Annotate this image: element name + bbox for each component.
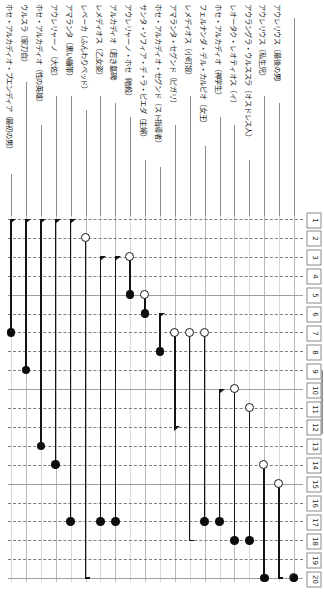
column-gridline (160, 216, 161, 582)
rank-axis-label: 7 (307, 325, 322, 341)
rank-gridline (8, 484, 303, 485)
label-lead-line (71, 96, 72, 216)
range-connector (263, 465, 265, 578)
series-end-marker[interactable] (96, 517, 105, 526)
series-start-marker[interactable] (10, 219, 16, 224)
rank-axis-label: 11 (307, 401, 322, 417)
label-lead-line (26, 82, 27, 216)
range-connector (85, 238, 87, 578)
series-start-marker[interactable] (55, 219, 61, 224)
series-end-marker[interactable] (7, 328, 16, 337)
label-lead-line (130, 117, 131, 216)
series-start-marker[interactable] (115, 256, 121, 261)
series-start-marker[interactable] (245, 403, 254, 412)
series-start-marker[interactable] (259, 460, 268, 469)
series-end-marker[interactable] (174, 426, 180, 431)
range-connector (100, 257, 102, 522)
series-end-marker[interactable] (111, 517, 120, 526)
series-start-marker[interactable] (200, 328, 209, 337)
rank-gridline (8, 314, 303, 315)
series-start-marker[interactable] (230, 384, 239, 393)
series-end-marker[interactable] (37, 442, 46, 451)
rank-axis-label: 5 (307, 288, 322, 304)
rank-gridline (8, 427, 303, 428)
range-connector (70, 219, 72, 521)
rank-axis-label: 14 (307, 458, 322, 474)
rank-gridline (8, 238, 303, 239)
series-start-marker[interactable] (81, 233, 90, 242)
range-connector (115, 257, 117, 522)
series-start-marker[interactable] (274, 479, 283, 488)
series-end-marker[interactable] (278, 577, 283, 579)
series-end-marker[interactable] (85, 577, 90, 579)
rank-axis-label: 10 (307, 382, 322, 398)
rank-axis-label: 8 (307, 344, 322, 360)
label-lead-line (264, 96, 265, 216)
column-gridline (294, 216, 295, 582)
series-start-marker[interactable] (100, 256, 106, 261)
rank-axis-label: 19 (307, 552, 322, 568)
rank-axis-label: 16 (307, 496, 322, 512)
category-label: ウルスラ（家刀自） (18, 4, 30, 194)
series-start-marker[interactable] (70, 219, 76, 224)
series-end-marker[interactable] (290, 574, 299, 583)
series-start-marker[interactable] (40, 219, 46, 224)
label-lead-line (190, 96, 191, 216)
series-end-marker[interactable] (200, 517, 209, 526)
label-lead-line (175, 125, 176, 217)
series-end-marker[interactable] (260, 574, 269, 583)
series-start-marker[interactable] (185, 328, 194, 337)
series-start-marker[interactable] (159, 313, 165, 318)
series-end-marker[interactable] (189, 540, 194, 542)
category-label: フェルナンダ・デル・カルピオ（女王） (197, 4, 209, 194)
category-label: レベーカ（ふんわりベッド） (78, 4, 90, 194)
category-label: ホセ・アルカディオ（性の英雄） (33, 4, 45, 194)
series-end-marker[interactable] (230, 536, 239, 545)
column-gridline (145, 216, 146, 582)
range-connector (234, 389, 236, 540)
range-connector (55, 219, 57, 465)
series-start-marker[interactable] (25, 219, 31, 224)
rank-axis-label: 2 (307, 231, 322, 247)
series-end-marker[interactable] (51, 460, 60, 469)
category-label: レメディオス（小町娘） (182, 4, 194, 194)
range-connector (189, 332, 191, 540)
range-connector (174, 332, 176, 427)
rank-axis-label: 20 (307, 571, 322, 587)
rank-axis-label: 6 (307, 307, 322, 323)
series-start-marker[interactable] (219, 389, 225, 394)
label-lead-line (205, 146, 206, 216)
rank-axis-label: 1 (307, 212, 322, 228)
range-connector (25, 219, 27, 370)
series-end-marker[interactable] (126, 290, 135, 299)
series-end-marker[interactable] (141, 309, 150, 318)
label-lead-line (11, 174, 12, 216)
rank-gridline (8, 446, 303, 447)
rank-gridline (8, 370, 303, 371)
category-label: レメディオス（乙女姿） (93, 4, 105, 194)
series-start-marker[interactable] (125, 252, 134, 261)
category-label: アマランタ・セグンド（ピガリ） (167, 4, 179, 194)
rank-gridline (8, 521, 303, 522)
category-label: ホセ・アルカディオ（神学生） (212, 4, 224, 194)
series-end-marker[interactable] (156, 347, 165, 356)
range-connector (219, 389, 221, 521)
range-connector (159, 314, 161, 352)
category-label: アウレリウス（私生児） (256, 4, 268, 194)
category-label: アウレリウス（最後の男） (271, 4, 283, 194)
series-end-marker[interactable] (22, 366, 31, 375)
series-end-marker[interactable] (66, 517, 75, 526)
rank-gridline (8, 295, 303, 296)
series-end-marker[interactable] (245, 536, 254, 545)
series-start-marker[interactable] (140, 290, 149, 299)
range-connector (249, 408, 251, 540)
rank-gridline (8, 219, 303, 220)
series-start-marker[interactable] (170, 328, 179, 337)
label-lead-line (160, 167, 161, 216)
label-lead-line (234, 125, 235, 217)
rank-gridline (8, 559, 303, 560)
label-lead-line (279, 103, 280, 216)
rank-gridline (8, 578, 303, 579)
series-end-marker[interactable] (215, 517, 224, 526)
rank-gridline (8, 389, 303, 390)
